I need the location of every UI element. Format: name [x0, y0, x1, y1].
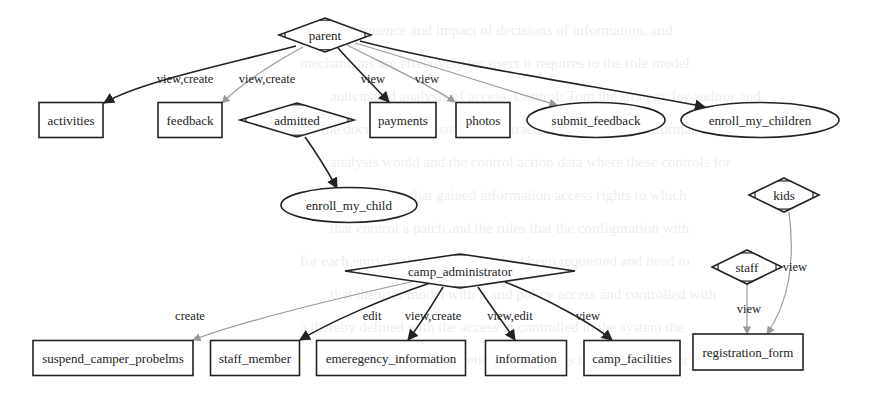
node-activities: activities	[39, 103, 103, 138]
edge-label: view,edit	[487, 309, 533, 323]
edge-label: view,create	[405, 309, 462, 323]
node-camp-facilities: camp_facilities	[584, 341, 680, 376]
edge-camp_administrator-to-information: view,edit	[478, 287, 533, 340]
node-label: enroll_my_child	[306, 198, 392, 213]
node-suspend-camper-probelms: suspend_camper_probelms	[33, 341, 193, 376]
access-control-diagram: view,createview,createviewviewcreateedit…	[0, 0, 871, 403]
node-label: emeregency_information	[326, 351, 457, 366]
node-feedback: feedback	[158, 103, 222, 138]
edge-label: view	[576, 309, 600, 323]
edge-label: view,create	[157, 72, 214, 86]
edge-label: view,create	[239, 72, 296, 86]
edge-line	[305, 137, 337, 188]
edge-label: view	[737, 302, 761, 316]
node-staff-member: staff_member	[211, 341, 300, 376]
edge-line	[193, 281, 415, 340]
node-label: feedback	[167, 113, 214, 128]
edge-parent-to-payments: view	[338, 48, 389, 102]
node-submit-feedback: submit_feedback	[527, 103, 665, 138]
node-enroll-my-children: enroll_my_children	[681, 103, 839, 138]
node-label: information	[495, 351, 557, 366]
edge-staff-to-registration_form: view	[737, 284, 761, 334]
node-label: admitted	[274, 113, 320, 128]
node-registration-form: registration_form	[693, 334, 803, 370]
edge-admitted-to-enroll_my_child	[305, 137, 337, 188]
node-emeregency-information: emeregency_information	[317, 341, 466, 376]
node-label: activities	[48, 113, 95, 128]
node-enroll-my-child: enroll_my_child	[281, 188, 417, 223]
node-label: submit_feedback	[552, 113, 641, 128]
node-label: staff_member	[219, 351, 292, 366]
node-label: staff	[736, 260, 760, 275]
node-photos: photos	[456, 103, 510, 138]
edge-label: view	[415, 72, 439, 86]
edge-line	[355, 43, 557, 105]
node-label: photos	[466, 113, 501, 128]
node-label: camp_administrator	[408, 264, 513, 279]
edge-parent-to-submit_feedback	[355, 43, 557, 105]
edge-label: create	[175, 309, 205, 323]
node-label: parent	[309, 28, 342, 43]
node-admitted: admitted	[240, 103, 354, 137]
node-label: payments	[378, 113, 428, 128]
edge-camp_administrator-to-emeregency_information: view,create	[405, 287, 462, 340]
node-label: enroll_my_children	[709, 113, 812, 128]
node-label: suspend_camper_probelms	[42, 351, 184, 366]
edge-label: view	[783, 260, 807, 274]
edge-parent-to-feedback: view,create	[222, 47, 303, 103]
node-label: camp_facilities	[592, 351, 671, 366]
node-information: information	[486, 341, 567, 376]
node-payments: payments	[370, 103, 436, 138]
node-label: registration_form	[703, 345, 794, 360]
edge-kids-to-registration_form: view	[767, 212, 807, 334]
edge-label: view	[361, 72, 385, 86]
edge-layer: view,createview,createviewviewcreateedit…	[104, 41, 807, 340]
node-camp-administrator: camp_administrator	[345, 254, 575, 288]
edge-label: edit	[363, 309, 382, 323]
node-label: kids	[773, 188, 795, 203]
node-kids: kids	[749, 178, 819, 212]
node-staff: staff	[712, 250, 782, 284]
